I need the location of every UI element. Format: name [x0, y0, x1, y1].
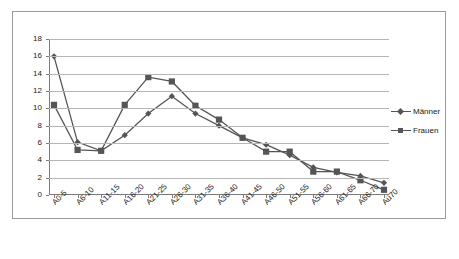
legend-swatch-square-icon — [391, 126, 411, 135]
data-point-square — [98, 148, 104, 154]
y-tick-label: 12 — [13, 87, 42, 95]
data-point-square — [169, 78, 175, 84]
y-axis — [49, 39, 50, 195]
gridline — [49, 74, 389, 75]
y-tick-mark — [46, 108, 49, 109]
data-point-square — [145, 74, 151, 80]
y-tick-label: 8 — [13, 122, 42, 130]
legend-item-männer[interactable]: Männer — [391, 107, 440, 116]
legend-swatch-diamond-icon — [391, 107, 411, 116]
chart-frame: 024681012141618 A0-5A6-10A11-15A16-20A21… — [12, 11, 446, 219]
y-tick-mark — [46, 74, 49, 75]
y-tick-mark — [46, 56, 49, 57]
data-point-square — [381, 187, 387, 193]
y-tick-mark — [46, 126, 49, 127]
legend-item-frauen[interactable]: Frauen — [391, 126, 438, 135]
legend-label: Männer — [413, 107, 440, 116]
y-tick-mark — [46, 178, 49, 179]
legend-label: Frauen — [413, 126, 438, 135]
chart-figure: 024681012141618 A0-5A6-10A11-15A16-20A21… — [0, 0, 459, 259]
gridline — [49, 39, 389, 40]
data-point-square — [51, 102, 57, 108]
gridline — [49, 160, 389, 161]
y-tick-mark — [46, 39, 49, 40]
data-point-diamond — [381, 180, 387, 186]
data-point-square — [263, 149, 269, 155]
y-tick-mark — [46, 160, 49, 161]
data-point-square — [310, 169, 316, 175]
gridline — [49, 108, 389, 109]
legend-marker-square-icon — [398, 128, 403, 133]
data-point-square — [287, 149, 293, 155]
series-layer — [49, 39, 389, 195]
data-point-square — [216, 117, 222, 123]
y-tick-label: 18 — [13, 35, 42, 43]
y-tick-label: 4 — [13, 156, 42, 164]
gridline — [49, 91, 389, 92]
y-tick-label: 0 — [13, 191, 42, 199]
gridline — [49, 178, 389, 179]
y-tick-mark — [46, 195, 49, 196]
data-point-square — [239, 135, 245, 141]
y-tick-label: 10 — [13, 104, 42, 112]
y-tick-label: 16 — [13, 52, 42, 60]
y-tick-mark — [46, 91, 49, 92]
data-point-square — [122, 102, 128, 108]
gridline — [49, 143, 389, 144]
gridline — [49, 126, 389, 127]
y-tick-label: 2 — [13, 174, 42, 182]
plot-area — [49, 39, 389, 195]
legend-marker-diamond-icon — [397, 108, 404, 115]
gridline — [49, 56, 389, 57]
y-tick-label: 6 — [13, 139, 42, 147]
data-point-square — [334, 169, 340, 175]
data-point-square — [74, 147, 80, 153]
y-tick-label: 14 — [13, 70, 42, 78]
y-tick-mark — [46, 143, 49, 144]
